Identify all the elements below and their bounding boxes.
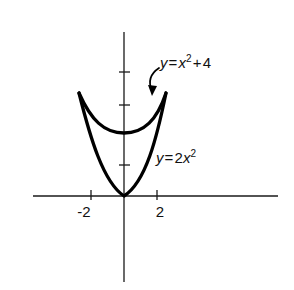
curve-y-equals-x-squared-plus-4 xyxy=(79,93,166,133)
label-y-equals-2x-squared: y=2x2 xyxy=(156,150,196,165)
label-lower-exponent: 2 xyxy=(191,148,197,159)
label-upper-constant: 4 xyxy=(203,54,211,71)
label-upper-equals: = xyxy=(168,54,179,71)
label-lower-y: y xyxy=(156,149,164,166)
label-lower-base: x xyxy=(183,149,191,166)
plot-canvas: -2 2 xyxy=(0,0,294,290)
label-upper-base: x xyxy=(178,54,186,71)
x-tick-label-minus-2: -2 xyxy=(77,203,90,220)
label-lower-coefficient: 2 xyxy=(174,149,182,166)
label-upper-exponent: 2 xyxy=(186,53,192,64)
curve-y-equals-2x-squared xyxy=(79,93,166,196)
curved-arrow-head xyxy=(148,85,157,96)
parabola-graph-figure: -2 2 y=x2+4 y=2x2 xyxy=(0,0,294,290)
label-upper-plus: + xyxy=(192,54,203,71)
x-tick-label-2: 2 xyxy=(156,203,164,220)
label-y-equals-x-squared-plus-4: y=x2+4 xyxy=(160,55,211,70)
label-lower-equals: = xyxy=(164,149,175,166)
label-upper-y: y xyxy=(160,54,168,71)
